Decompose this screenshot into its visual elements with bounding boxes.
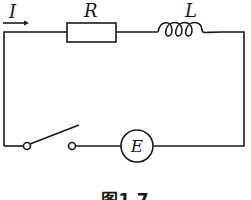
switch-terminal-left xyxy=(24,143,31,150)
circuit-diagram: I R L E 图1.7 xyxy=(0,0,251,200)
switch-terminal-right xyxy=(69,143,76,150)
switch-lever xyxy=(30,125,79,144)
inductor xyxy=(158,23,222,37)
label-resistor: R xyxy=(83,0,98,21)
current-arrowhead-icon xyxy=(24,21,29,26)
label-current: I xyxy=(8,1,17,22)
figure-caption: 图1.7 xyxy=(101,190,148,200)
resistor xyxy=(67,23,116,42)
wire-top-right xyxy=(153,32,244,146)
label-source: E xyxy=(130,136,144,156)
label-inductor: L xyxy=(184,0,197,21)
wire-top-left xyxy=(4,32,67,146)
